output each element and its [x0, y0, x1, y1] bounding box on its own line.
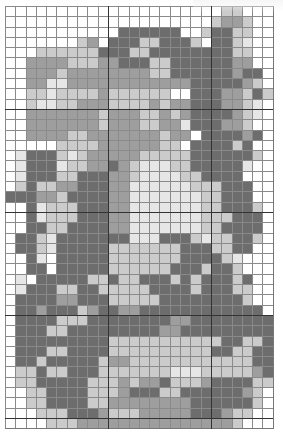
grid-cell [242, 47, 252, 57]
grid-cell [36, 47, 46, 57]
grid-cell [180, 325, 190, 335]
grid-cell [46, 130, 56, 140]
grid-cell [221, 202, 231, 212]
grid-cell [5, 366, 15, 376]
grid-cell [15, 377, 25, 387]
grid-cell [26, 6, 36, 16]
grid-cell [190, 119, 200, 129]
grid-cell [139, 366, 149, 376]
grid-cell [211, 150, 221, 160]
grid-cell [180, 160, 190, 170]
grid-cell [98, 397, 108, 407]
grid-cell [46, 315, 56, 325]
grid-cell [77, 408, 87, 418]
grid-cell [232, 356, 242, 366]
grid-cell [56, 160, 66, 170]
grid-cell [252, 16, 262, 26]
grid-cell [5, 222, 15, 232]
grid-cell [26, 171, 36, 181]
grid-cell [262, 78, 272, 88]
grid-cell [67, 212, 77, 222]
grid-cell [190, 397, 200, 407]
grid-cell [26, 119, 36, 129]
grid-cell [201, 191, 211, 201]
grid-cell [242, 171, 252, 181]
grid-cell [5, 253, 15, 263]
grid-cell [26, 315, 36, 325]
grid-cell [190, 109, 200, 119]
grid-cell [87, 212, 97, 222]
grid-cell [252, 397, 262, 407]
grid-cell [67, 418, 77, 428]
grid-cell [5, 130, 15, 140]
grid-cell [87, 140, 97, 150]
grid-cell [221, 356, 231, 366]
grid-cell [118, 284, 128, 294]
grid-cell [190, 377, 200, 387]
grid-cell [139, 99, 149, 109]
grid-cell [26, 408, 36, 418]
grid-cell [15, 418, 25, 428]
grid-cell [26, 109, 36, 119]
grid-cell [170, 243, 180, 253]
major-gridline-horizontal [5, 418, 273, 419]
grid-cell [98, 191, 108, 201]
grid-cell [26, 233, 36, 243]
grid-cell [139, 233, 149, 243]
grid-cell [252, 233, 262, 243]
grid-cell [159, 68, 169, 78]
grid-cell [211, 212, 221, 222]
grid-cell [252, 160, 262, 170]
grid-cell [15, 366, 25, 376]
grid-cell [149, 387, 159, 397]
grid-cell [77, 397, 87, 407]
grid-cell [108, 222, 118, 232]
grid-cell [36, 284, 46, 294]
grid-cell [67, 78, 77, 88]
grid-cell [46, 408, 56, 418]
grid-cell [129, 377, 139, 387]
grid-cell [98, 130, 108, 140]
grid-cell [139, 408, 149, 418]
grid-cell [170, 181, 180, 191]
grid-cell [221, 109, 231, 119]
grid-cell [232, 160, 242, 170]
grid-cell [232, 57, 242, 67]
grid-cell [87, 191, 97, 201]
grid-cell [262, 325, 272, 335]
grid-cell [118, 325, 128, 335]
grid-cell [139, 47, 149, 57]
grid-cell [201, 387, 211, 397]
grid-cell [180, 346, 190, 356]
grid-cell [159, 397, 169, 407]
grid-cell [77, 119, 87, 129]
grid-cell [87, 336, 97, 346]
grid-cell [159, 150, 169, 160]
grid-cell [262, 160, 272, 170]
grid-cell [159, 263, 169, 273]
grid-cell [118, 387, 128, 397]
grid-cell [190, 78, 200, 88]
grid-cell [67, 202, 77, 212]
grid-cell [36, 68, 46, 78]
grid-cell [98, 253, 108, 263]
grid-cell [5, 377, 15, 387]
grid-cell [139, 68, 149, 78]
grid-cell [232, 377, 242, 387]
grid-cell [15, 150, 25, 160]
grid-cell [232, 346, 242, 356]
grid-cell [87, 202, 97, 212]
grid-cell [129, 140, 139, 150]
grid-cell [201, 397, 211, 407]
grid-cell [139, 325, 149, 335]
grid-cell [129, 212, 139, 222]
grid-cell [180, 171, 190, 181]
grid-cell [46, 57, 56, 67]
grid-cell [46, 119, 56, 129]
grid-cell [159, 377, 169, 387]
grid-cell [87, 88, 97, 98]
grid-cell [108, 150, 118, 160]
grid-cell [87, 27, 97, 37]
grid-cell [67, 99, 77, 109]
grid-cell [87, 305, 97, 315]
